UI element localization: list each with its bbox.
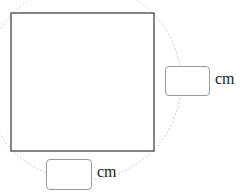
diagram-canvas [0,0,251,196]
square [11,13,154,151]
unit-label-right: cm [215,70,235,88]
side-length-input-bottom[interactable] [46,159,92,190]
unit-label-bottom: cm [97,163,117,181]
side-length-input-right[interactable] [165,66,210,96]
